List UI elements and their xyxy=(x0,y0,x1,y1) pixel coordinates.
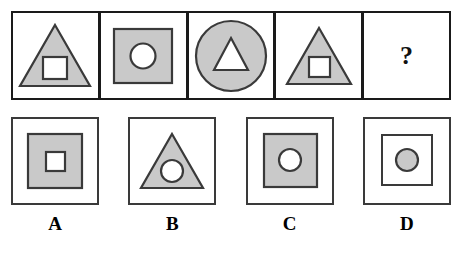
gray-square-with-white-square-icon xyxy=(24,130,86,192)
problem-cell-4[interactable] xyxy=(273,13,361,98)
option-d[interactable] xyxy=(363,117,451,205)
problem-cell-1[interactable] xyxy=(13,13,98,98)
problem-row: ? xyxy=(11,11,451,100)
problem-cell-3[interactable] xyxy=(186,13,274,98)
options-row xyxy=(11,117,451,205)
gray-square-with-white-circle-icon xyxy=(108,21,178,91)
option-label-a: A xyxy=(11,210,99,244)
option-label-b: B xyxy=(128,210,216,244)
question-mark: ? xyxy=(400,43,413,69)
problem-cell-2[interactable] xyxy=(98,13,186,98)
option-b[interactable] xyxy=(128,117,216,205)
gray-triangle-with-white-square-icon xyxy=(17,21,93,91)
option-label-d: D xyxy=(363,210,451,244)
gray-triangle-with-white-circle-icon xyxy=(137,130,207,192)
option-c[interactable] xyxy=(246,117,334,205)
gray-square-with-white-circle-icon xyxy=(259,130,321,192)
problem-cell-answer-slot[interactable]: ? xyxy=(361,13,449,98)
white-square-with-gray-circle-icon xyxy=(376,130,438,192)
option-a[interactable] xyxy=(11,117,99,205)
gray-triangle-with-white-square-icon xyxy=(284,24,354,88)
analogy-puzzle: ? xyxy=(0,0,462,255)
option-labels-row: A B C D xyxy=(11,210,451,244)
option-label-c: C xyxy=(246,210,334,244)
gray-circle-with-white-triangle-icon xyxy=(193,18,269,94)
